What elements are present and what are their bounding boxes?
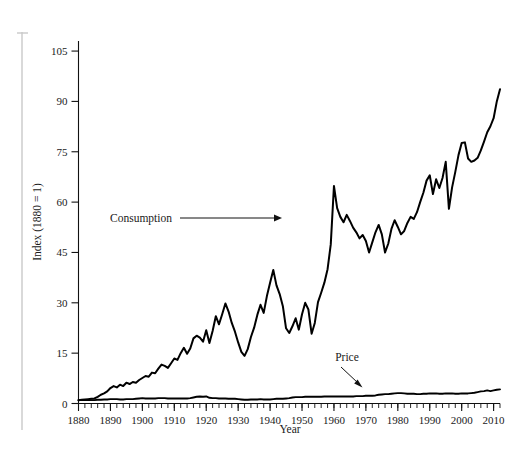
x-tick-label-1990: 1990 [419,414,442,426]
x-tick-label-2000: 2000 [451,414,474,426]
line-chart: 0153045607590105 18801890190019101920193… [0,0,524,461]
x-axis-label: Year [279,423,300,435]
y-tick-label-0: 0 [62,398,68,410]
y-tick-label-45: 45 [57,246,69,258]
y-tick-label-75: 75 [57,146,69,158]
x-tick-label-1940: 1940 [259,414,282,426]
y-tick-label-60: 60 [57,196,69,208]
y-axis-label: Index (1880 = 1) [31,183,44,261]
x-tick-label-1980: 1980 [387,414,410,426]
x-tick-label-1930: 1930 [227,414,250,426]
y-tick-label-15: 15 [57,347,69,359]
x-tick-label-1900: 1900 [131,414,154,426]
x-tick-label-1970: 1970 [355,414,378,426]
x-tick-label-1960: 1960 [323,414,346,426]
y-tick-label-30: 30 [57,297,69,309]
price-annotation-label: Price [335,351,359,363]
figure-container: 0153045607590105 18801890190019101920193… [0,0,524,461]
x-tick-label-1910: 1910 [163,414,186,426]
x-tick-label-1920: 1920 [195,414,218,426]
x-tick-label-2010: 2010 [483,414,506,426]
y-tick-label-105: 105 [51,45,68,57]
x-tick-label-1890: 1890 [99,414,122,426]
x-tick-label-1880: 1880 [68,414,91,426]
consumption-annotation-label: Consumption [110,212,172,225]
y-tick-label-90: 90 [57,95,69,107]
